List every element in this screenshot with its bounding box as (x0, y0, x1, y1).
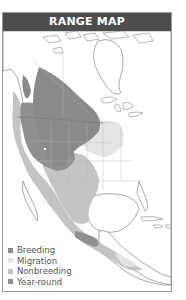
breeding-swatch (8, 248, 13, 253)
range-map-panel: RANGE MAP (2, 12, 172, 292)
migration-swatch (8, 258, 13, 263)
panel-title: RANGE MAP (3, 13, 171, 31)
map-legend: Breeding Migration Nonbreeding Year-roun… (8, 245, 72, 287)
legend-item-migration: Migration (8, 256, 72, 267)
year-round-swatch (8, 279, 13, 284)
nonbreeding-swatch (8, 269, 13, 274)
legend-item-year-round: Year-round (8, 277, 72, 288)
legend-item-nonbreeding: Nonbreeding (8, 266, 72, 277)
legend-item-breeding: Breeding (8, 245, 72, 256)
baja-california (22, 181, 37, 221)
location-marker (43, 147, 46, 150)
legend-label: Year-round (17, 277, 62, 287)
legend-label: Migration (17, 256, 57, 266)
legend-label: Nonbreeding (17, 266, 72, 276)
legend-label: Breeding (17, 245, 55, 255)
